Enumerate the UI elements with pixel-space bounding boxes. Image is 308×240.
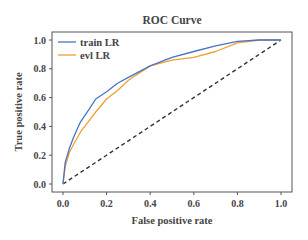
- y-axis-ticks: 0.00.20.40.60.81.0: [34, 35, 53, 190]
- legend-label-train: train LR: [80, 37, 120, 48]
- y-tick-label: 0.8: [34, 63, 47, 74]
- series-line-evl-lr: [63, 40, 281, 184]
- y-tick-label: 1.0: [34, 35, 47, 46]
- x-tick-label: 1.0: [275, 198, 288, 209]
- chart-title: ROC Curve: [142, 14, 201, 26]
- x-axis-ticks: 0.00.20.40.60.81.0: [57, 192, 288, 209]
- roc-chart: ROC Curve 0.00.20.40.60.81.0 0.00.20.40.…: [0, 0, 308, 240]
- x-tick-label: 0.0: [57, 198, 70, 209]
- x-tick-label: 0.8: [231, 198, 244, 209]
- legend: train LR evl LR: [58, 37, 120, 61]
- x-tick-label: 0.4: [144, 198, 157, 209]
- x-axis-label: False positive rate: [131, 215, 212, 226]
- y-tick-label: 0.4: [34, 121, 47, 132]
- y-tick-label: 0.2: [34, 150, 47, 161]
- x-tick-label: 0.2: [100, 198, 113, 209]
- y-tick-label: 0.6: [34, 92, 47, 103]
- chart-canvas: ROC Curve 0.00.20.40.60.81.0 0.00.20.40.…: [0, 0, 308, 240]
- legend-label-evl: evl LR: [80, 50, 110, 61]
- y-axis-label: True positive rate: [13, 72, 24, 151]
- y-tick-label: 0.0: [34, 179, 47, 190]
- series-lines: [63, 40, 281, 184]
- x-tick-label: 0.6: [188, 198, 201, 209]
